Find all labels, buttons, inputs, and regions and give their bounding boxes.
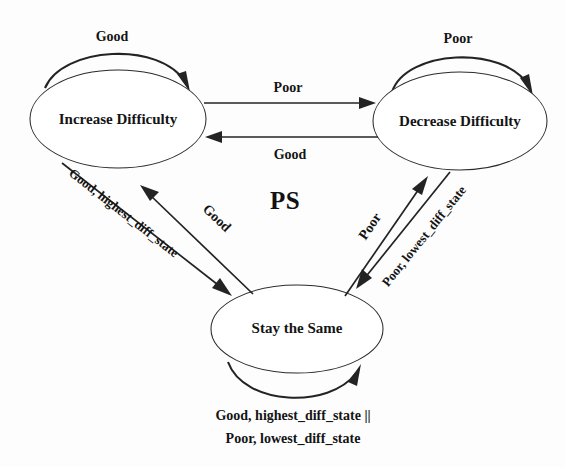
increase-to-stay-arrowhead [212, 278, 232, 296]
decrease-self-label: Poor [444, 31, 473, 46]
stay-to-increase-label: Good [200, 201, 234, 235]
state-node-decrease[interactable]: Decrease Difficulty [373, 72, 547, 170]
decrease-to-increase-label: Good [274, 147, 307, 162]
diagram-title: PS [270, 187, 300, 214]
increase-to-stay-label: Good, highest_diff_state [66, 165, 182, 260]
transition-decrease-to-increase[interactable]: Good [205, 131, 378, 162]
decrease-to-increase-arrowhead [205, 131, 222, 143]
increase-to-decrease-arrowhead [359, 97, 376, 109]
stay-self-arrowhead [348, 364, 361, 386]
state-diagram-canvas: Good Poor Increase Difficulty Decrease D… [0, 0, 565, 467]
stay-to-decrease-label: Poor [356, 210, 385, 242]
stay-self-label-line1: Good, highest_diff_state || [215, 408, 370, 423]
stay-to-increase-arrowhead [140, 185, 159, 201]
state-node-increase[interactable]: Increase Difficulty [30, 70, 206, 168]
decrease-to-stay-label: Poor, lowest_diff_state [379, 183, 470, 290]
decrease-label: Decrease Difficulty [399, 113, 521, 129]
stay-to-decrease-arrowhead [412, 176, 428, 195]
increase-label: Increase Difficulty [59, 111, 178, 127]
transition-increase-to-decrease[interactable]: Poor [204, 80, 376, 109]
increase-to-decrease-label: Poor [274, 80, 303, 95]
transition-stay-self[interactable]: Good, highest_diff_state || Poor, lowest… [215, 362, 370, 446]
state-node-stay[interactable]: Stay the Same [211, 285, 383, 373]
increase-self-label: Good [96, 29, 129, 44]
state-diagram: Good Poor Increase Difficulty Decrease D… [0, 0, 565, 467]
stay-self-label-line2: Poor, lowest_diff_state [226, 431, 361, 446]
stay-label: Stay the Same [252, 320, 343, 336]
transition-increase-to-stay[interactable]: Good, highest_diff_state [62, 163, 232, 296]
